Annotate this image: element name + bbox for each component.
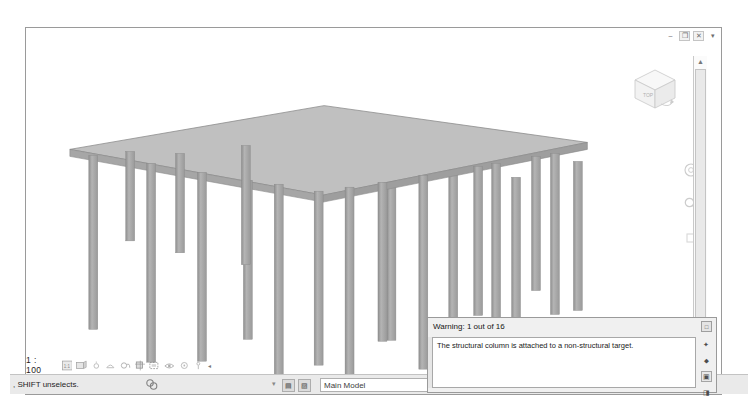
- rendering-dialog-icon[interactable]: [120, 360, 131, 371]
- warning-expand-button[interactable]: □: [701, 321, 712, 332]
- view-cube[interactable]: TOP: [627, 64, 683, 116]
- warning-side-buttons[interactable]: ✦ ⬥ ▣ ◨: [699, 339, 713, 398]
- restore-button[interactable]: ❐: [679, 31, 690, 41]
- sun-path-icon[interactable]: [91, 360, 102, 371]
- reveal-hidden-elements-icon[interactable]: [179, 360, 190, 371]
- svg-text:TOP: TOP: [643, 92, 654, 98]
- scroll-up-arrow[interactable]: ▲: [694, 56, 707, 67]
- expand-collapse-button[interactable]: ◨: [701, 387, 712, 398]
- worksharing-display-icon[interactable]: [193, 360, 204, 371]
- show-button[interactable]: ✦: [701, 339, 712, 350]
- status-message: , SHIFT unselects.: [10, 380, 79, 389]
- editable-only-toggle[interactable]: ▤: [282, 379, 295, 392]
- minimize-button[interactable]: –: [665, 31, 676, 41]
- window-controls: – ❐ ✕ ▾: [665, 29, 718, 42]
- exclude-options-toggle[interactable]: ▨: [298, 379, 311, 392]
- workset-toggles[interactable]: ▤ ▨: [282, 379, 311, 392]
- temporary-hide-isolate-icon[interactable]: [164, 360, 175, 371]
- filter-selection-icon[interactable]: [145, 378, 159, 392]
- delete-checked-button[interactable]: ▣: [701, 371, 712, 382]
- view-scale-label[interactable]: 1 : 100: [26, 355, 52, 375]
- view-control-overflow[interactable]: ◂: [208, 362, 211, 369]
- main-model-value: Main Model: [324, 381, 365, 390]
- warning-message-area[interactable]: The structural column is attached to a n…: [432, 337, 696, 388]
- shadows-icon[interactable]: [105, 360, 116, 371]
- visual-style-icon[interactable]: [76, 360, 87, 371]
- show-crop-region-icon[interactable]: [149, 360, 160, 371]
- crop-view-icon[interactable]: [135, 360, 146, 371]
- detail-level-icon[interactable]: 1:1: [62, 360, 73, 371]
- warning-message-text: The structural column is attached to a n…: [433, 338, 695, 353]
- warning-panel[interactable]: Warning: 1 out of 16 □ The structural co…: [427, 317, 717, 393]
- more-info-button[interactable]: ⬥: [701, 355, 712, 366]
- more-options-button[interactable]: ▾: [707, 31, 718, 41]
- close-button[interactable]: ✕: [693, 31, 704, 41]
- warning-title: Warning: 1 out of 16: [433, 322, 694, 335]
- svg-text:1:1: 1:1: [63, 363, 70, 368]
- view-control-bar[interactable]: 1 : 100 1:1 ◂: [26, 356, 211, 374]
- status-separator: ▾: [272, 380, 276, 388]
